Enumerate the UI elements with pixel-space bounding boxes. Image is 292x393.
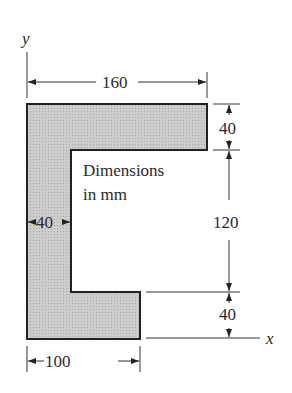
x-axis-label: x — [266, 330, 274, 347]
note-line1: Dimensions — [83, 162, 164, 179]
dim-web-thickness: 40 — [36, 214, 53, 231]
cross-section-diagram — [0, 0, 292, 393]
dim-middle: 120 — [213, 212, 239, 233]
y-axis-label: y — [22, 30, 30, 47]
dim-top-flange: 40 — [219, 120, 236, 137]
dim-bottom-width: 100 — [44, 353, 72, 370]
section-shape — [27, 104, 207, 339]
dim-top-width: 160 — [99, 74, 131, 91]
note-line2: in mm — [83, 186, 127, 203]
dim-bottom-flange: 40 — [219, 306, 236, 323]
